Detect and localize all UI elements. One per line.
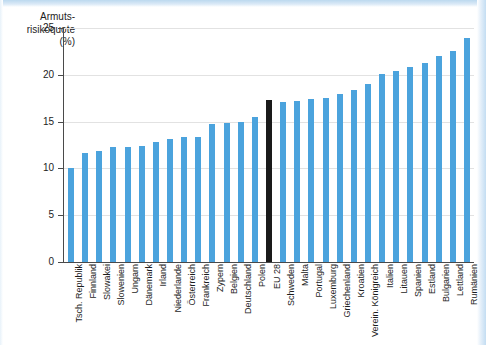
x-label-eu-28: EU 28 — [273, 264, 282, 289]
bar-slowakei — [96, 151, 102, 262]
y-tick-label-0: 0 — [30, 257, 54, 267]
chart-page: Armuts- risikoquote (%) 0510152025 Tsch.… — [0, 0, 486, 345]
bar-griechenland — [337, 94, 343, 262]
x-label-belgien: Belgien — [230, 264, 239, 294]
x-label-deutschland: Deutschland — [244, 264, 253, 314]
x-label-malta: Malta — [301, 264, 310, 286]
bar-niederlande — [167, 139, 173, 262]
bar-zypern — [209, 124, 215, 262]
x-label-lettland: Lettland — [456, 264, 465, 296]
page-border-top — [0, 0, 486, 7]
x-axis-labels: Tsch. RepublikFinnlandSlowakeiSlowenienU… — [64, 264, 474, 344]
x-label-portugal: Portugal — [315, 264, 324, 298]
page-border-left — [0, 0, 3, 345]
bar-series — [64, 28, 474, 262]
x-label-litauen: Litauen — [400, 264, 409, 294]
bar-belgien — [224, 123, 230, 262]
x-label-slowakei: Slowakei — [103, 264, 112, 300]
x-label-niederlande: Niederlande — [174, 264, 183, 313]
y-tick-5 — [58, 215, 63, 216]
bar-tsch-republik — [68, 168, 74, 262]
y-tick-label-20: 20 — [30, 70, 54, 80]
bar-schweden — [280, 102, 286, 262]
x-label-rum-nien: Rumänien — [470, 264, 479, 305]
x-label-tsch-republik: Tsch. Republik — [75, 264, 84, 323]
x-label-finnland: Finnland — [89, 264, 98, 299]
bar-finnland — [82, 153, 88, 262]
bar-lettland — [450, 51, 456, 262]
x-label-bulgarien: Bulgarien — [442, 264, 451, 302]
bar-luxemburg — [323, 98, 329, 262]
bar-frankreich — [195, 137, 201, 262]
x-label-italien: Italien — [386, 264, 395, 288]
bar-spanien — [407, 67, 413, 262]
bar-d-nemark — [139, 146, 145, 262]
bar-ungarn — [125, 147, 131, 262]
y-tick-label-10: 10 — [30, 163, 54, 173]
bar-rum-nien — [464, 38, 470, 262]
x-label-schweden: Schweden — [287, 264, 296, 306]
bar-irland — [153, 142, 159, 262]
bar-portugal — [308, 99, 314, 262]
y-tick-label-15: 15 — [30, 117, 54, 127]
bar-kroatien — [351, 90, 357, 262]
bar-slowenien — [110, 147, 116, 262]
bar-italien — [379, 74, 385, 262]
x-label-griechenland: Griechenland — [343, 264, 352, 318]
x-label-d-nemark: Dänemark — [145, 264, 154, 306]
x-label-luxemburg: Luxemburg — [329, 264, 338, 309]
y-tick-10 — [58, 168, 63, 169]
bar-verein-k-nigreich — [365, 84, 371, 262]
bar-deutschland — [238, 122, 244, 262]
x-label-slowenien: Slowenien — [117, 264, 126, 306]
x-label-kroatien: Kroatien — [357, 264, 366, 298]
bar-estland — [422, 63, 428, 262]
x-label-polen: Polen — [258, 264, 267, 287]
bar-malta — [294, 101, 300, 262]
x-label-irland: Irland — [159, 264, 168, 287]
y-tick-label-25: 25 — [30, 23, 54, 33]
y-tick-0 — [58, 262, 63, 263]
x-label-ungarn: Ungarn — [131, 264, 140, 294]
gridline-0 — [64, 262, 474, 263]
y-tick-20 — [58, 75, 63, 76]
x-label-verein-k-nigreich: Verein. Königreich — [371, 264, 380, 337]
bar-bulgarien — [436, 56, 442, 262]
bar-sterreich — [181, 137, 187, 262]
x-label-spanien: Spanien — [414, 264, 423, 297]
bar-polen — [252, 117, 258, 262]
x-label-sterreich: Österreich — [188, 264, 197, 306]
x-label-zypern: Zypern — [216, 264, 225, 292]
bar-litauen — [393, 71, 399, 262]
x-label-estland: Estland — [428, 264, 437, 294]
bar-eu-28 — [266, 100, 272, 262]
y-tick-15 — [58, 122, 63, 123]
y-tick-25 — [58, 28, 63, 29]
y-tick-label-5: 5 — [30, 210, 54, 220]
x-label-frankreich: Frankreich — [202, 264, 211, 307]
